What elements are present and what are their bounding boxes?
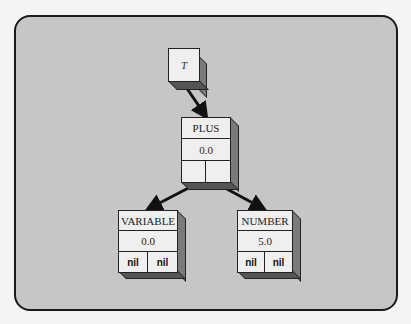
left-pointer: nil	[238, 252, 265, 272]
node-type: NUMBER	[238, 211, 292, 231]
right-pointer: nil	[148, 252, 177, 272]
right-pointer: nil	[265, 252, 292, 272]
node-type: PLUS	[182, 118, 230, 139]
left-pointer	[182, 161, 206, 182]
node-value: 0.0	[182, 139, 230, 161]
left-pointer: nil	[119, 252, 148, 272]
node-value: 5.0	[238, 231, 292, 252]
root-label: T	[169, 49, 199, 81]
node-type: VARIABLE	[119, 211, 177, 231]
node-value: 0.0	[119, 231, 177, 252]
right-pointer	[206, 161, 230, 182]
